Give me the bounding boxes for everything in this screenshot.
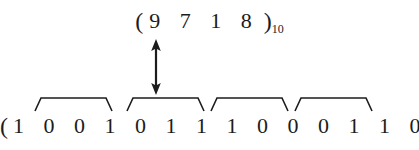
- decimal-number-row: (9 7 1 8)10: [0, 8, 419, 42]
- nibble-bracket-4: [294, 94, 373, 112]
- equivalence-arrow: [141, 38, 171, 96]
- bcd-digits: 1 0 0 1 0 1 1 1 0 0 0 1 1 0 0 0: [8, 113, 419, 138]
- decimal-digits: 9 7 1 8: [143, 8, 264, 33]
- bcd-open-paren: (: [0, 113, 8, 139]
- decimal-base-subscript: 10: [272, 22, 284, 36]
- nibble-bracket-3: [210, 94, 289, 112]
- nibble-bracket-2: [126, 94, 205, 112]
- nibble-brackets-row: [0, 94, 419, 114]
- bcd-number-row: (1 0 0 1 0 1 1 1 0 0 0 1 1 0 0 0)BCD: [0, 112, 419, 148]
- double-headed-vertical-arrow-icon: [141, 38, 171, 96]
- bracket-top-icon: [126, 94, 205, 112]
- decimal-close-paren: ): [264, 8, 272, 34]
- bracket-top-icon: [34, 94, 113, 112]
- bcd-conversion-diagram: (9 7 1 8)10: [0, 0, 419, 150]
- bracket-top-icon: [294, 94, 373, 112]
- bracket-top-icon: [210, 94, 289, 112]
- nibble-bracket-1: [34, 94, 113, 112]
